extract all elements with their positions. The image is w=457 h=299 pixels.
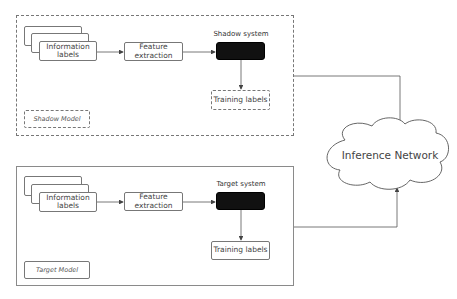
inference-network-label: Inference Network	[330, 149, 450, 161]
shadow-input-line2: labels	[57, 51, 79, 60]
shadow-training-labels-text: Training labels	[213, 96, 267, 105]
target-model-label: Target Model	[36, 266, 78, 275]
shadow-feature-extraction-box: Feature extraction	[124, 42, 183, 61]
shadow-system-label: Shadow system	[211, 30, 271, 38]
target-feature-extraction-box: Feature extraction	[124, 192, 183, 211]
shadow-training-labels-box: Training labels	[211, 90, 270, 110]
target-input-line2: labels	[57, 202, 79, 211]
shadow-information-labels-box: Information labels	[39, 41, 97, 61]
shadow-system-box	[216, 42, 265, 60]
target-training-labels-text: Training labels	[213, 246, 267, 255]
target-feature-line2: extraction	[134, 202, 172, 211]
shadow-model-label-box: Shadow Model	[24, 110, 90, 128]
target-model-label-box: Target Model	[24, 261, 90, 279]
target-system-label: Target system	[211, 180, 271, 188]
shadow-feature-line2: extraction	[134, 52, 172, 61]
target-information-labels-box: Information labels	[39, 192, 97, 212]
target-training-labels-box: Training labels	[211, 241, 270, 260]
target-system-box	[216, 192, 265, 210]
shadow-model-label: Shadow Model	[33, 115, 80, 124]
